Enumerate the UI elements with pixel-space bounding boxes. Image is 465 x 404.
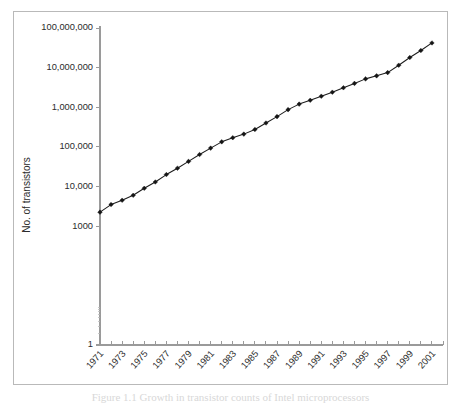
data-point-marker xyxy=(253,127,258,132)
transistor-count-data-markers xyxy=(98,41,435,215)
x-tick-label: 1987 xyxy=(261,349,282,371)
x-tick-label: 1985 xyxy=(239,349,260,371)
y-tick-label: 1 xyxy=(88,339,93,349)
y-tick-label: 10,000,000 xyxy=(46,62,93,72)
x-axis xyxy=(96,341,443,345)
data-point-marker xyxy=(330,90,335,95)
data-point-marker xyxy=(219,140,224,145)
x-tick-label: 1977 xyxy=(151,349,172,371)
x-tick-label: 1981 xyxy=(195,349,216,371)
x-tick-label: 1971 xyxy=(84,349,105,371)
transistor-count-series-line xyxy=(100,43,432,212)
x-tick-label: 2001 xyxy=(416,349,437,371)
data-point-marker xyxy=(352,81,357,86)
transistor-count-line-chart: 100,000,00010,000,0001,000,000100,00010,… xyxy=(0,0,465,404)
y-tick-label: 10,000 xyxy=(65,181,93,191)
x-tick-label: 1999 xyxy=(394,349,415,371)
data-point-marker xyxy=(230,135,235,140)
x-tick-label: 1983 xyxy=(217,349,238,371)
chart-plot-area: 100,000,00010,000,0001,000,000100,00010,… xyxy=(0,0,465,404)
x-tick-label: 1993 xyxy=(328,349,349,371)
data-point-marker xyxy=(308,98,313,103)
data-point-marker xyxy=(319,94,324,99)
data-point-marker xyxy=(374,74,379,79)
y-tick-label: 1,000,000 xyxy=(52,102,93,112)
y-tick-label: 1000 xyxy=(72,221,93,231)
x-tick-label: 1995 xyxy=(350,349,371,371)
x-tick-label: 1991 xyxy=(306,349,327,371)
x-tick-label: 1979 xyxy=(173,349,194,371)
y-tick-label: 100,000,000 xyxy=(41,22,93,32)
data-point-marker xyxy=(242,132,247,137)
y-axis xyxy=(96,26,100,345)
data-point-marker xyxy=(208,146,213,151)
data-point-marker xyxy=(297,102,302,107)
x-axis-tick-labels: 1971197319751977197919811983198519871989… xyxy=(84,349,437,371)
y-tick-label: 100,000 xyxy=(59,141,93,151)
data-point-marker xyxy=(120,198,125,203)
figure-container: 100,000,00010,000,0001,000,000100,00010,… xyxy=(0,0,465,404)
data-point-marker xyxy=(363,77,368,82)
data-point-marker xyxy=(186,159,191,164)
data-point-marker xyxy=(341,85,346,90)
x-tick-label: 1989 xyxy=(283,349,304,371)
x-tick-label: 1997 xyxy=(372,349,393,371)
data-point-marker xyxy=(175,166,180,171)
y-axis-tick-labels: 100,000,00010,000,0001,000,000100,00010,… xyxy=(41,22,93,349)
x-tick-label: 1975 xyxy=(128,349,149,371)
y-axis-title: No. of transistors xyxy=(21,157,32,233)
data-point-marker xyxy=(264,121,269,126)
figure-caption-cutoff: Figure 1.1 Growth in transistor counts o… xyxy=(13,392,448,404)
x-tick-label: 1973 xyxy=(106,349,127,371)
